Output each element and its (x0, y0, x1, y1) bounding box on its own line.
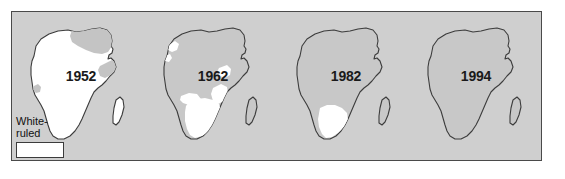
africa-map-1962 (145, 12, 277, 160)
africa-map-1982 (278, 12, 410, 160)
map-panel-1994: 1994 (409, 12, 541, 160)
legend-label-line1: White- (16, 115, 70, 127)
figure-frame: 1952 (11, 11, 542, 161)
madagascar-1994 (510, 97, 521, 125)
white-ruled-areas-1982 (318, 105, 348, 138)
white-ruled-legend: White- ruled (16, 115, 70, 158)
africa-map-1994 (409, 12, 541, 160)
madagascar-1982 (379, 97, 390, 125)
map-panel-1962: 1962 (145, 12, 277, 160)
africa-mainland-1994 (428, 28, 513, 139)
legend-label-line2: ruled (16, 127, 70, 139)
legend-swatch-white-ruled (16, 142, 64, 158)
madagascar-1962 (246, 97, 257, 125)
africa-white-rule-map-figure: 1952 (0, 0, 565, 179)
south-africa-namibia-region-1982 (318, 105, 348, 138)
madagascar-1952 (113, 97, 124, 125)
map-panel-1982: 1982 (278, 12, 410, 160)
